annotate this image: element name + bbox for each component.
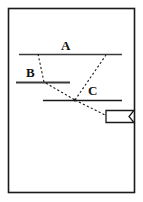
region-label-c: C [88, 84, 97, 97]
incident-ray-path [38, 54, 75, 100]
ray-junction-node [74, 99, 77, 102]
region-label-b: B [26, 66, 35, 79]
transmitted-ray-path [75, 100, 107, 116]
figure-vector-layer [0, 0, 143, 202]
region-label-a: A [61, 39, 70, 52]
banner-flag [106, 111, 134, 123]
figure-canvas: A B C [0, 0, 143, 202]
